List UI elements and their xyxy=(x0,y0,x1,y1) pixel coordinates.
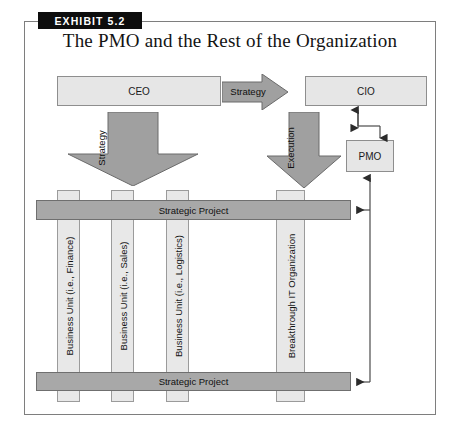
column-label: Business Unit (i.e., Logistics) xyxy=(172,235,183,357)
column-label: Business Unit (i.e., Sales) xyxy=(117,242,128,351)
column-business-unit-sales: Business Unit (i.e., Sales) xyxy=(111,190,134,402)
column-business-unit-finance: Business Unit (i.e., Finance) xyxy=(57,190,80,402)
execution-down-arrow-label: Execution xyxy=(285,127,296,169)
strategy-down-arrow-icon xyxy=(68,112,198,186)
column-label: Breakthrough IT Organization xyxy=(285,234,296,358)
node-cio: CIO xyxy=(305,76,427,106)
node-pmo: PMO xyxy=(346,140,394,172)
strategic-project-bar-top: Strategic Project xyxy=(36,200,351,220)
execution-down-arrow-icon xyxy=(267,112,341,188)
figure-title: The PMO and the Rest of the Organization xyxy=(24,30,436,52)
column-label: Business Unit (i.e., Finance) xyxy=(63,237,74,356)
node-ceo: CEO xyxy=(57,76,221,106)
column-business-unit-logistics: Business Unit (i.e., Logistics) xyxy=(166,190,189,402)
strategic-project-bar-bottom: Strategic Project xyxy=(36,372,351,391)
exhibit-label: EXHIBIT 5.2 xyxy=(38,12,142,29)
exhibit-figure: EXHIBIT 5.2 The PMO and the Rest of the … xyxy=(0,0,461,443)
strategy-down-arrow-label: Strategy xyxy=(96,130,107,165)
strategy-right-arrow-label: Strategy xyxy=(230,86,265,97)
column-breakthrough-it-organization: Breakthrough IT Organization xyxy=(276,190,305,402)
